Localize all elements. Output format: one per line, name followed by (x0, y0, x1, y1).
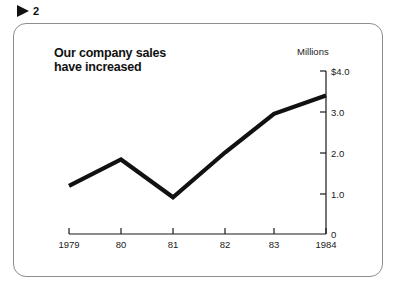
play-triangle-icon (17, 5, 29, 17)
x-tick-label: 1984 (315, 239, 336, 250)
x-tick-label: 83 (269, 239, 280, 250)
line-chart-plot: $4.0 3.0 2.0 1.0 0 1979 80 81 82 83 1984 (14, 24, 384, 278)
chart-card: Our company sales have increased Million… (13, 23, 383, 277)
data-series-line (69, 95, 326, 197)
x-tick-label: 1979 (58, 239, 79, 250)
figure-number: 2 (33, 5, 39, 17)
y-tick-label: 3.0 (331, 107, 344, 118)
y-tick-label: 0 (331, 229, 336, 240)
x-tick-label: 80 (116, 239, 127, 250)
y-tick-label: 2.0 (331, 148, 344, 159)
y-axis-ticks (320, 71, 326, 194)
figure-marker: 2 (17, 2, 39, 20)
x-axis-tick-labels: 1979 80 81 82 83 1984 (58, 239, 336, 250)
y-tick-label: $4.0 (331, 66, 350, 77)
x-tick-label: 81 (168, 239, 179, 250)
y-tick-label: 1.0 (331, 189, 344, 200)
x-tick-label: 82 (220, 239, 231, 250)
y-axis-tick-labels: $4.0 3.0 2.0 1.0 0 (331, 66, 350, 240)
x-axis-ticks (69, 228, 326, 234)
